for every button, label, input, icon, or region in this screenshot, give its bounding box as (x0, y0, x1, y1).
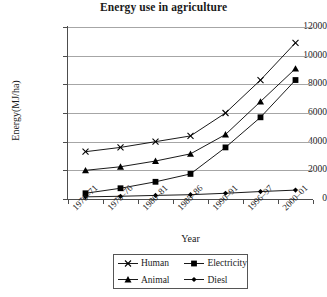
x-tick-mark (68, 200, 69, 204)
legend-entry-diesl[interactable]: Diesl (180, 274, 247, 285)
series-layer (0, 0, 327, 297)
x-tick-mark (313, 200, 314, 204)
energy-use-chart: Energy use in agriculture Energy(MJ/ha) … (0, 0, 327, 297)
x-cross-marker-icon (117, 258, 139, 269)
x-tick-mark (138, 200, 139, 204)
legend-label: Diesl (207, 275, 227, 285)
diamond-marker-icon (183, 274, 205, 285)
legend-entry-human[interactable]: Human (114, 258, 180, 269)
triangle-marker-icon (117, 274, 139, 285)
x-tick-mark (208, 200, 209, 204)
legend-label: Human (141, 258, 169, 268)
x-tick-mark (243, 200, 244, 204)
series-human (83, 40, 299, 155)
legend-label: Electricity (207, 258, 247, 268)
x-tick-mark (103, 200, 104, 204)
chart-legend: HumanElectricityAnimalDiesl (113, 254, 248, 289)
x-tick-mark (173, 200, 174, 204)
x-axis-title: Year (68, 233, 313, 244)
x-tick-mark (278, 200, 279, 204)
legend-entry-animal[interactable]: Animal (114, 274, 180, 285)
square-marker-icon (183, 258, 205, 269)
legend-entry-electricity[interactable]: Electricity (180, 258, 247, 269)
series-animal (82, 65, 299, 173)
legend-label: Animal (141, 275, 170, 285)
